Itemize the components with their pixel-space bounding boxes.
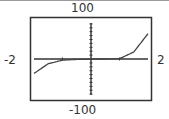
plot-area: [0, 0, 169, 119]
